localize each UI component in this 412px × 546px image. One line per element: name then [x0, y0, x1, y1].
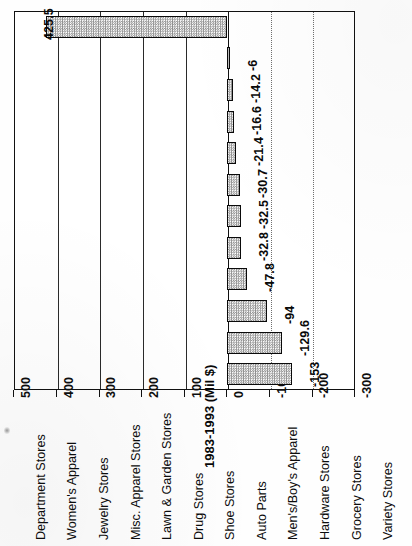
bar-women-s-apparel: [227, 47, 230, 69]
bar-hardware-stores: [227, 300, 267, 322]
bar-drug-stores: [227, 174, 240, 196]
bar-auto-parts: [227, 237, 241, 259]
category-label-variety-stores: Variety Stores: [381, 462, 395, 540]
bar-men-s-boy-s-apparel: [227, 268, 247, 290]
value-axis-tick-label: 200: [147, 377, 161, 398]
bar-value-label: -21.4: [252, 137, 266, 166]
bar-value-label: -30.7: [256, 169, 270, 198]
category-label-men-s-boy-s-apparel: Men's/Boy's Apparel: [286, 427, 300, 540]
bar-value-label: -94: [283, 306, 297, 324]
scan-artifact-speck: [4, 427, 10, 434]
bar-variety-stores: [227, 363, 292, 385]
bar-department-stores: [46, 16, 227, 38]
gridline-200: [143, 12, 144, 389]
tick-mark--300: [354, 390, 355, 397]
value-axis-tick-label: 500: [19, 377, 33, 398]
bar-value-label: -47.8: [263, 263, 277, 292]
bar-value-label: -32.5: [257, 200, 271, 229]
bar-value-label: -6: [246, 60, 260, 71]
category-label-hardware-stores: Hardware Stores: [318, 446, 332, 541]
category-label-drug-stores: Drug Stores: [192, 473, 206, 540]
bar-misc-apparel-stores: [227, 111, 234, 133]
tick-mark-200: [141, 390, 142, 397]
tick-mark-100: [184, 390, 185, 397]
category-label-misc-apparel-stores: Misc. Apparel Stores: [129, 425, 143, 541]
category-label-auto-parts: Auto Parts: [255, 481, 269, 540]
value-axis-title: 1983-1993 (Mil $): [202, 365, 217, 468]
bar-value-label: -129.6: [298, 320, 312, 356]
bar-shoe-stores: [227, 205, 241, 227]
bar-value-label: -16.6: [250, 106, 264, 135]
bar-value-label: -32.8: [257, 232, 271, 261]
bar-lawn-garden-stores: [227, 142, 236, 164]
gridline-100: [186, 12, 187, 389]
tick-mark--200: [312, 390, 313, 397]
category-label-shoe-stores: Shoe Stores: [223, 471, 237, 540]
bar-jewelry-stores: [227, 79, 233, 101]
value-axis-tick-label: 300: [104, 377, 118, 398]
category-label-jewelry-stores: Jewelry Stores: [97, 457, 111, 540]
value-axis-tick-label: 0: [232, 391, 246, 398]
tick-mark--100: [269, 390, 270, 397]
gridline--200: [313, 12, 314, 389]
category-label-department-stores: Department Stores: [34, 434, 48, 540]
tick-mark-400: [56, 390, 57, 397]
value-axis-tick-label: 400: [62, 377, 76, 398]
category-label-women-s-apparel: Women's Apparel: [65, 442, 79, 540]
category-label-grocery-stores: Grocery Stores: [350, 455, 364, 540]
value-axis-tick-label: -300: [360, 373, 374, 398]
bar-grocery-stores: [227, 332, 282, 354]
tick-mark-0: [226, 390, 227, 397]
gridline-300: [100, 12, 101, 389]
tick-mark-300: [99, 390, 100, 397]
bar-value-label: 425.5: [42, 8, 56, 40]
gridline-400: [58, 12, 59, 389]
category-label-lawn-garden-stores: Lawn & Garden Stores: [160, 413, 174, 540]
bar-value-label: -153: [308, 362, 322, 387]
tick-mark-500: [13, 390, 14, 397]
bar-value-label: -14.2: [249, 74, 263, 103]
